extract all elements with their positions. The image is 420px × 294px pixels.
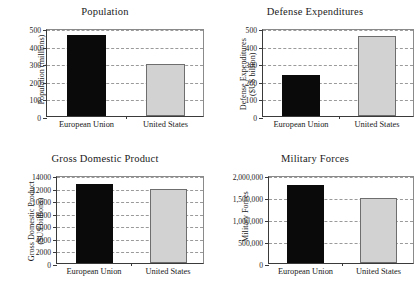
x-axis-category-label: European Union xyxy=(278,267,333,276)
y-axis-tick-label: 0 xyxy=(47,261,51,270)
y-axis-tick xyxy=(53,190,57,191)
y-axis-tick xyxy=(265,199,269,200)
y-axis-tick-label: 200 xyxy=(246,78,257,87)
x-axis-tick xyxy=(131,263,132,266)
y-axis-tick-label: 500 xyxy=(246,26,257,35)
y-axis-tick xyxy=(53,240,57,241)
y-axis-tick xyxy=(259,118,263,119)
bar-military-forces-european-union xyxy=(287,185,324,263)
y-axis-tick xyxy=(43,30,47,31)
y-axis-tick xyxy=(259,65,263,66)
y-axis-tick-label: 500 xyxy=(30,26,41,35)
y-axis-tick xyxy=(43,100,47,101)
y-axis-tick xyxy=(53,252,57,253)
chart-title-defense-expenditures: Defense Expenditures xyxy=(210,6,420,17)
y-axis-tick-label: 100 xyxy=(246,96,257,105)
y-axis-tick-label: 6000 xyxy=(36,223,51,232)
chart-title-gross-domestic-product: Gross Domestic Product xyxy=(0,153,210,164)
chart-panel-population: PopulationPopulation (millions)010020030… xyxy=(0,0,210,147)
y-axis-tick-label: 2,000,000 xyxy=(233,173,263,182)
y-axis-tick xyxy=(43,83,47,84)
y-axis-tick-label: 300 xyxy=(246,61,257,70)
y-axis-tick xyxy=(259,48,263,49)
y-axis-tick-label: 100 xyxy=(30,96,41,105)
y-axis-tick xyxy=(43,65,47,66)
x-axis-category-label: United States xyxy=(356,267,401,276)
plot-area-population: 0100200300400500European UnionUnited Sta… xyxy=(46,29,204,117)
chart-panel-gross-domestic-product: Gross Domestic ProductGross Domestic Pro… xyxy=(0,147,210,294)
y-axis-tick xyxy=(43,48,47,49)
x-axis-category-label: United States xyxy=(146,267,191,276)
y-axis-tick-label: 1,000,000 xyxy=(233,217,263,226)
y-axis-tick xyxy=(53,265,57,266)
y-axis-tick xyxy=(265,177,269,178)
y-axis-tick-label: 12000 xyxy=(32,185,51,194)
y-axis-tick xyxy=(53,215,57,216)
y-axis-tick xyxy=(265,221,269,222)
chart-panel-defense-expenditures: Defense ExpendituresDefense Expenditures… xyxy=(210,0,420,147)
y-axis-tick-label: 0 xyxy=(259,261,263,270)
chart-panel-military-forces: Military ForcesMilitary Forces0500,0001,… xyxy=(210,147,420,294)
y-axis-tick xyxy=(259,30,263,31)
y-axis-tick-label: 8000 xyxy=(36,210,51,219)
y-axis-tick-label: 4000 xyxy=(36,235,51,244)
x-axis-tick xyxy=(126,116,127,119)
gridline xyxy=(47,30,203,31)
x-axis-category-label: European Union xyxy=(66,267,121,276)
x-axis-tick xyxy=(339,116,340,119)
y-axis-tick-label: 2000 xyxy=(36,248,51,257)
figure-canvas: PopulationPopulation (millions)010020030… xyxy=(0,0,420,294)
y-axis-tick-label: 14000 xyxy=(32,173,51,182)
y-axis-tick xyxy=(265,265,269,266)
x-axis-category-label: European Union xyxy=(273,120,328,129)
y-axis-tick xyxy=(259,83,263,84)
gridline xyxy=(263,30,413,31)
bar-defense-expenditures-european-union xyxy=(282,75,320,116)
x-axis-category-label: European Union xyxy=(59,120,114,129)
y-axis-tick xyxy=(53,177,57,178)
bar-gross-domestic-product-united-states xyxy=(150,189,187,263)
x-axis-category-label: United States xyxy=(143,120,188,129)
x-axis-tick xyxy=(342,263,343,266)
gridline xyxy=(269,177,413,178)
bar-population-united-states xyxy=(146,64,186,116)
y-axis-tick xyxy=(265,243,269,244)
y-axis-tick-label: 0 xyxy=(253,114,257,123)
gridline xyxy=(57,177,203,178)
y-axis-tick-label: 300 xyxy=(30,61,41,70)
bar-population-european-union xyxy=(67,35,107,116)
y-axis-tick xyxy=(53,227,57,228)
y-axis-tick xyxy=(43,118,47,119)
plot-area-military-forces: 0500,0001,000,0001,500,0002,000,000Europ… xyxy=(268,176,414,264)
y-axis-tick-label: 400 xyxy=(246,43,257,52)
y-axis-tick-label: 0 xyxy=(37,114,41,123)
chart-title-population: Population xyxy=(0,6,210,17)
y-axis-tick-label: 500,000 xyxy=(238,239,263,248)
y-axis-tick-label: 400 xyxy=(30,43,41,52)
bar-gross-domestic-product-european-union xyxy=(76,184,113,263)
y-axis-tick-label: 10000 xyxy=(32,198,51,207)
bar-military-forces-united-states xyxy=(360,198,397,263)
plot-area-gross-domestic-product: 02000400060008000100001200014000European… xyxy=(56,176,204,264)
plot-area-defense-expenditures: 0100200300400500European UnionUnited Sta… xyxy=(262,29,414,117)
bar-defense-expenditures-united-states xyxy=(358,36,396,116)
y-axis-tick xyxy=(53,202,57,203)
chart-title-military-forces: Military Forces xyxy=(210,153,420,164)
y-axis-tick xyxy=(259,100,263,101)
y-axis-tick-label: 1,500,000 xyxy=(233,195,263,204)
y-axis-tick-label: 200 xyxy=(30,78,41,87)
x-axis-category-label: United States xyxy=(355,120,400,129)
